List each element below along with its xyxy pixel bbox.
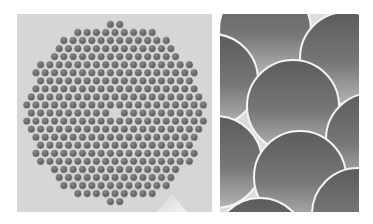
fiber xyxy=(162,166,170,174)
fiber xyxy=(153,69,161,77)
fiber xyxy=(97,53,105,61)
fiber xyxy=(111,157,119,165)
fiber xyxy=(93,109,101,117)
fiber xyxy=(181,133,189,141)
fiber xyxy=(148,77,156,85)
fiber xyxy=(162,149,170,157)
fiber xyxy=(125,69,133,77)
fiber xyxy=(37,125,45,133)
fiber xyxy=(102,157,110,165)
fiber xyxy=(88,37,96,45)
fiber xyxy=(134,133,142,141)
fiber xyxy=(130,141,138,149)
fiber xyxy=(27,109,35,117)
fiber xyxy=(55,61,63,69)
fiber xyxy=(74,141,82,149)
fiber xyxy=(186,125,194,133)
fiber xyxy=(139,29,147,37)
fiber xyxy=(74,190,82,198)
fiber xyxy=(102,125,110,133)
fiber xyxy=(107,85,115,93)
fiber xyxy=(27,93,35,101)
fiber xyxy=(102,77,110,85)
fiber xyxy=(134,182,142,190)
fiber xyxy=(158,93,166,101)
fiber xyxy=(120,45,128,53)
fiber xyxy=(116,53,124,61)
fiber xyxy=(120,174,128,182)
fiber xyxy=(120,61,128,69)
fiber xyxy=(111,61,119,69)
fiber xyxy=(167,174,175,182)
fiber xyxy=(41,101,49,109)
fiber xyxy=(74,125,82,133)
fiber xyxy=(88,149,96,157)
fiber xyxy=(139,77,147,85)
fiber xyxy=(97,101,105,109)
fiber xyxy=(139,141,147,149)
fiber xyxy=(69,53,77,61)
fiber xyxy=(130,157,138,165)
fiber xyxy=(74,93,82,101)
fiber xyxy=(186,141,194,149)
fiber xyxy=(176,141,184,149)
fiber xyxy=(65,157,73,165)
fiber xyxy=(153,133,161,141)
fiber xyxy=(107,133,115,141)
fiber xyxy=(134,53,142,61)
fiber xyxy=(120,109,128,117)
fiber xyxy=(32,85,40,93)
fiber xyxy=(41,133,49,141)
fiber xyxy=(111,174,119,182)
fiber xyxy=(134,69,142,77)
fiber xyxy=(88,85,96,93)
fiber xyxy=(74,157,82,165)
fiber xyxy=(23,101,31,109)
fiber xyxy=(32,149,40,157)
fiber xyxy=(107,101,115,109)
fiber xyxy=(93,93,101,101)
fiber xyxy=(134,166,142,174)
fiber xyxy=(116,149,124,157)
fiber-grid xyxy=(23,21,207,206)
fiber xyxy=(65,61,73,69)
fiber xyxy=(153,117,161,125)
fiber xyxy=(79,69,87,77)
fiber xyxy=(116,69,124,77)
fiber xyxy=(83,157,91,165)
fiber xyxy=(51,117,59,125)
fiber xyxy=(79,37,87,45)
fiber xyxy=(111,141,119,149)
fiber xyxy=(190,69,198,77)
fiber xyxy=(32,101,40,109)
fiber xyxy=(153,85,161,93)
magnified-fiber-group xyxy=(220,14,359,212)
fiber xyxy=(79,133,87,141)
fiber xyxy=(176,61,184,69)
fiber xyxy=(102,45,110,53)
fiber xyxy=(41,117,49,125)
fiber xyxy=(125,133,133,141)
fiber xyxy=(153,101,161,109)
fiber xyxy=(125,37,133,45)
fiber xyxy=(69,69,77,77)
fiber xyxy=(79,149,87,157)
fiber xyxy=(65,141,73,149)
fiber xyxy=(60,182,68,190)
fiber xyxy=(190,117,198,125)
fiber xyxy=(125,101,133,109)
fiber xyxy=(93,141,101,149)
fiber xyxy=(69,149,77,157)
fiber xyxy=(186,77,194,85)
fiber xyxy=(55,109,63,117)
fiber xyxy=(125,117,133,125)
fiber xyxy=(69,182,77,190)
fiber xyxy=(130,61,138,69)
fiber xyxy=(148,141,156,149)
fiber xyxy=(116,21,124,29)
fiber xyxy=(181,117,189,125)
fiber xyxy=(144,117,152,125)
fiber xyxy=(153,149,161,157)
fiber xyxy=(181,149,189,157)
fiber xyxy=(88,166,96,174)
